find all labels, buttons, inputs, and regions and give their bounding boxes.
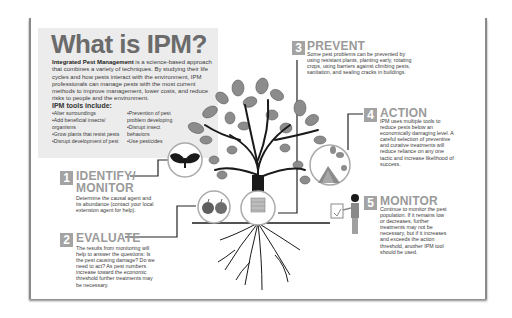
- step-1-number: 1: [60, 171, 73, 185]
- step-2-text: The results from monitoring will help to…: [76, 245, 158, 288]
- connector-action: [348, 114, 363, 150]
- step-4-text: IPM uses multiple tools to reduce pests …: [380, 118, 456, 167]
- step-3-number: 3: [292, 41, 305, 55]
- step-1-title-line2: MONITOR: [76, 182, 134, 194]
- step-2-number: 2: [60, 233, 73, 247]
- person-clipboard-icon: [331, 194, 359, 234]
- step-4-number: 4: [364, 108, 377, 122]
- connector-identify: [130, 160, 170, 176]
- step-3-text: Some pest problems can be prevented by u…: [307, 51, 419, 75]
- step-1-text: Determine the causal agent and its abund…: [76, 195, 156, 213]
- step-2-title: EVALUATE: [76, 232, 141, 244]
- step-5-number: 5: [364, 196, 377, 210]
- tree-band-icon: [251, 198, 265, 212]
- step-5-text: Continue to monitor the pest population.…: [380, 206, 450, 255]
